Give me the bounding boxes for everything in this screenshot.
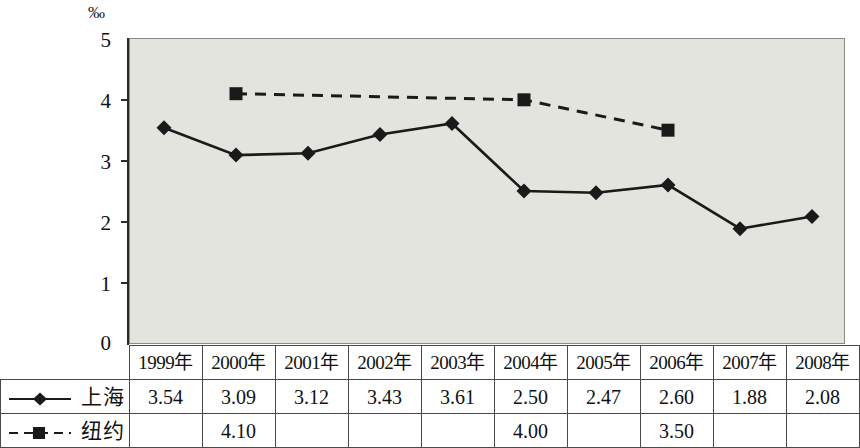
- data-point-marker: [301, 146, 316, 161]
- cell-newyork-2003: [421, 414, 494, 448]
- table-corner-cell: [1, 346, 130, 380]
- data-point-marker: [661, 177, 676, 192]
- table-header-2003: 2003年: [421, 346, 494, 380]
- y-tick-label-4: 4: [101, 91, 112, 112]
- y-axis-labels: 5 4 3 2 1 0: [0, 0, 129, 352]
- cell-newyork-2008: [786, 414, 859, 448]
- table-header-2006: 2006年: [640, 346, 713, 380]
- legend-marker-diamond-icon: [7, 389, 73, 405]
- table-header-row: 1999年 2000年 2001年 2002年 2003年 2004年 2005…: [1, 346, 860, 380]
- cell-newyork-2002: [348, 414, 421, 448]
- cell-shanghai-1999: 3.54: [129, 380, 202, 414]
- cell-shanghai-2006: 2.60: [640, 380, 713, 414]
- table-header-2004: 2004年: [494, 346, 567, 380]
- cell-newyork-2004: 4.00: [494, 414, 567, 448]
- table-row-newyork: 纽约 4.10 4.00 3.50: [1, 414, 860, 448]
- cell-shanghai-2004: 2.50: [494, 380, 567, 414]
- y-tick-label-1: 1: [101, 274, 112, 295]
- cell-newyork-2007: [713, 414, 786, 448]
- cell-shanghai-2002: 3.43: [348, 380, 421, 414]
- cell-newyork-2006: 3.50: [640, 414, 713, 448]
- data-point-marker: [229, 148, 244, 163]
- series-line-1: [164, 124, 812, 229]
- data-point-marker: [518, 93, 531, 106]
- cell-shanghai-2001: 3.12: [275, 380, 348, 414]
- legend-label-shanghai: 上海: [73, 386, 125, 408]
- data-point-marker: [733, 221, 748, 236]
- plot-area: [129, 38, 845, 344]
- data-point-marker: [373, 127, 388, 142]
- cell-newyork-2005: [567, 414, 640, 448]
- data-point-marker: [157, 120, 172, 135]
- cell-newyork-2001: [275, 414, 348, 448]
- legend-marker-square-icon: [7, 423, 73, 439]
- legend-cell-shanghai: 上海: [1, 380, 130, 414]
- y-tick-label-2: 2: [101, 213, 112, 234]
- data-table: 1999年 2000年 2001年 2002年 2003年 2004年 2005…: [0, 345, 860, 448]
- cell-shanghai-2007: 1.88: [713, 380, 786, 414]
- legend-label-newyork: 纽约: [73, 420, 125, 442]
- cell-shanghai-2005: 2.47: [567, 380, 640, 414]
- cell-shanghai-2003: 3.61: [421, 380, 494, 414]
- cell-newyork-2000: 4.10: [202, 414, 275, 448]
- table-header-2008: 2008年: [786, 346, 859, 380]
- cell-newyork-1999: [129, 414, 202, 448]
- chart-plot-svg: [130, 39, 844, 343]
- y-tick-label-3: 3: [101, 152, 112, 173]
- table-header-2007: 2007年: [713, 346, 786, 380]
- table-header-2005: 2005年: [567, 346, 640, 380]
- table-row-shanghai: 上海 3.54 3.09 3.12 3.43 3.61 2.50 2.47 2.…: [1, 380, 860, 414]
- table-header-1999: 1999年: [129, 346, 202, 380]
- data-point-marker: [589, 185, 604, 200]
- cell-shanghai-2000: 3.09: [202, 380, 275, 414]
- data-point-marker: [805, 209, 820, 224]
- y-tick-label-5: 5: [101, 30, 112, 51]
- table-header-2002: 2002年: [348, 346, 421, 380]
- data-point-marker: [662, 124, 675, 137]
- data-point-marker: [230, 87, 243, 100]
- table-header-2001: 2001年: [275, 346, 348, 380]
- legend-cell-newyork: 纽约: [1, 414, 130, 448]
- chart-region: ‰ 5 4 3 2 1 0: [0, 0, 849, 352]
- cell-shanghai-2008: 2.08: [786, 380, 859, 414]
- table-header-2000: 2000年: [202, 346, 275, 380]
